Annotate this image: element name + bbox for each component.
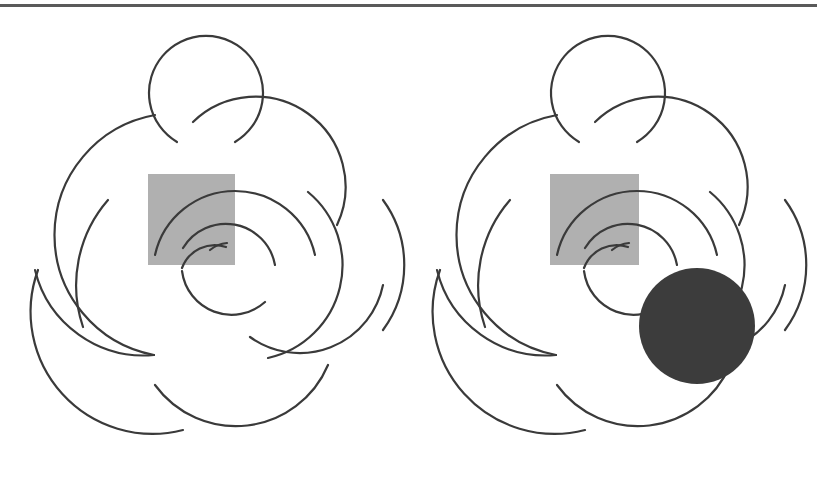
dark-disk	[639, 268, 755, 384]
arc-10	[785, 200, 806, 330]
right-figure	[433, 36, 807, 434]
top-rule	[0, 4, 817, 7]
figures	[31, 36, 807, 434]
left-figure	[31, 36, 405, 434]
gray-square	[550, 174, 639, 265]
arc-3	[76, 200, 108, 327]
gray-square	[148, 174, 235, 265]
diagram-canvas	[0, 0, 817, 489]
arc-0	[149, 36, 263, 142]
arc-6	[268, 192, 342, 358]
arc-3	[478, 200, 510, 327]
arc-8	[35, 270, 154, 355]
arc-4	[31, 270, 183, 434]
arc-9	[250, 285, 383, 353]
arc-5	[155, 365, 328, 426]
arc-14	[182, 271, 265, 315]
arc-10	[383, 200, 404, 330]
arc-4	[433, 270, 585, 434]
arc-8	[437, 270, 556, 355]
arc-0	[551, 36, 665, 142]
arc-2	[54, 115, 155, 355]
arc-2	[456, 115, 557, 355]
